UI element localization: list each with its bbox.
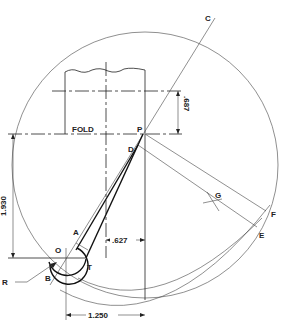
label-f: F <box>271 210 276 219</box>
arrow-icon <box>176 129 180 134</box>
label-p: P <box>137 125 143 134</box>
label-c: C <box>205 14 211 23</box>
arrow-icon <box>66 313 71 317</box>
label-t: T <box>87 263 92 272</box>
label-d: D <box>128 145 134 154</box>
line-de <box>138 145 257 227</box>
drawing-svg: C P D G F E A O T B R FOLD .687 1.930 .6… <box>0 0 284 327</box>
arrow-icon <box>11 134 15 139</box>
arrow-icon <box>140 238 145 242</box>
arrow-icon <box>140 313 145 317</box>
arc-outer <box>60 205 270 306</box>
label-g: G <box>215 191 221 200</box>
line-pf <box>145 134 266 211</box>
arrow-icon <box>176 91 180 96</box>
break-line <box>65 68 145 72</box>
label-o: O <box>55 246 61 255</box>
label-a: A <box>73 228 79 237</box>
label-b: B <box>45 274 51 283</box>
arrow-icon <box>11 253 15 258</box>
construction-drawing: C P D G F E A O T B R FOLD .687 1.930 .6… <box>0 0 284 327</box>
fold-label: FOLD <box>72 125 94 134</box>
line-d <box>76 145 138 250</box>
label-r: R <box>2 278 8 287</box>
label-e: E <box>259 231 265 240</box>
dim-1250-text: 1.250 <box>88 311 109 320</box>
dim-1930-text: 1.930 <box>0 195 8 216</box>
dim-687-text: .687 <box>182 96 191 112</box>
dim-627-text: .627 <box>112 236 128 245</box>
